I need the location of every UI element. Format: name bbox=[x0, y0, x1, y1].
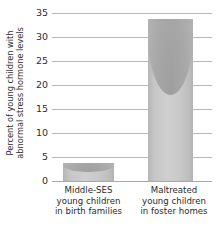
x-label-maltreated-line-2: young children bbox=[130, 196, 218, 207]
x-label-middle-ses-line-3: in birth families bbox=[46, 206, 131, 217]
x-label-middle-ses: Middle-SES young children in birth famil… bbox=[46, 185, 131, 217]
y-axis-title-line-2: abnormal stress hormone levels bbox=[15, 27, 25, 159]
y-tick-5: 5 bbox=[42, 152, 48, 162]
x-label-middle-ses-line-1: Middle-SES bbox=[46, 185, 131, 196]
x-label-maltreated-line-3: in foster homes bbox=[130, 206, 218, 217]
x-axis-category-labels: Middle-SES young children in birth famil… bbox=[52, 185, 212, 229]
bar-top-cap-shading bbox=[63, 163, 114, 171]
gridline-0-baseline bbox=[52, 181, 212, 182]
gridline-35 bbox=[52, 13, 212, 14]
bar-chart: Percent of young children with abnormal … bbox=[0, 0, 219, 229]
y-tick-20: 20 bbox=[36, 80, 48, 90]
y-tick-30: 30 bbox=[36, 32, 48, 42]
y-tick-10: 10 bbox=[36, 128, 48, 138]
y-axis-title-line-1: Percent of young children with bbox=[5, 27, 15, 159]
y-axis-tick-labels: 35 30 25 20 15 10 5 0 bbox=[27, 0, 50, 186]
y-axis-title: Percent of young children with abnormal … bbox=[0, 0, 30, 186]
plot-area bbox=[52, 13, 212, 182]
x-label-maltreated-line-1: Maltreated bbox=[130, 185, 218, 196]
bar-maltreated bbox=[148, 19, 193, 181]
bar-top-cap-shading bbox=[148, 19, 193, 95]
y-tick-25: 25 bbox=[36, 56, 48, 66]
y-tick-35: 35 bbox=[36, 8, 48, 18]
bar-middle-ses bbox=[63, 163, 114, 181]
x-label-middle-ses-line-2: young children bbox=[46, 196, 131, 207]
x-label-maltreated: Maltreated young children in foster home… bbox=[130, 185, 218, 217]
y-tick-15: 15 bbox=[36, 104, 48, 114]
